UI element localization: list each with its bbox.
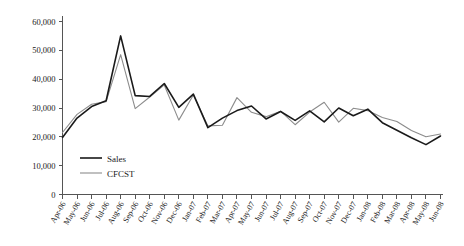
line-chart: 010,00020,00030,00040,00050,00060,000 Ap…	[0, 0, 464, 246]
legend-label-sales: Sales	[107, 154, 126, 164]
y-tick-label: 20,000	[32, 132, 55, 142]
legend-label-cfcst: CFCST	[107, 169, 135, 179]
data-series-group	[63, 36, 441, 145]
y-axis: 010,00020,00030,00040,00050,00060,000	[32, 16, 62, 200]
x-tick-label: Jun-07	[253, 200, 272, 223]
x-tick-label: Jun-06	[78, 200, 97, 223]
y-tick-label: 40,000	[32, 74, 55, 84]
y-tick-label: 50,000	[32, 45, 55, 55]
x-tick-label: Jun-08	[427, 200, 446, 223]
chart-legend: SalesCFCST	[80, 154, 135, 179]
y-tick-label: 30,000	[32, 103, 55, 113]
y-tick-label: 0	[51, 190, 55, 200]
x-axis: Apr-06May-06Jun-06Jul-06Aug-06Sep-06Oct-…	[48, 195, 445, 227]
y-tick-label: 10,000	[32, 161, 55, 171]
series-line-cfcst	[63, 55, 441, 137]
chart-canvas: 010,00020,00030,00040,00050,00060,000 Ap…	[0, 0, 464, 246]
series-line-sales	[63, 36, 441, 145]
y-tick-label: 60,000	[32, 17, 55, 27]
